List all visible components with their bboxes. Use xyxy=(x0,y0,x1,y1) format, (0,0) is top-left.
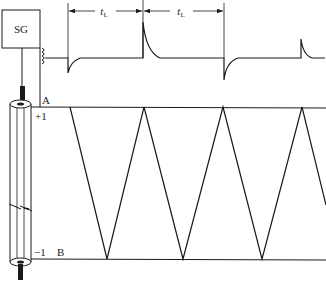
node-a-label: A xyxy=(42,94,50,106)
coax-cable xyxy=(9,86,32,280)
top-rail xyxy=(31,107,326,108)
signal-generator: SG xyxy=(2,10,40,48)
interval-label-2: tL xyxy=(177,5,184,19)
reflection-plus-label: +1 xyxy=(35,110,47,122)
sg-label: SG xyxy=(14,23,28,35)
reflection-diagram: SG A +1 −1 B tL tL xyxy=(0,0,326,282)
bottom-rail xyxy=(31,259,326,260)
reflection-minus-label: −1 xyxy=(34,246,46,258)
node-b-label: B xyxy=(57,246,64,258)
bounce-zigzag xyxy=(70,107,326,259)
pulse-waveform xyxy=(60,22,325,80)
interval-label-1: tL xyxy=(100,5,107,19)
coupling-coil-icon xyxy=(42,48,44,64)
